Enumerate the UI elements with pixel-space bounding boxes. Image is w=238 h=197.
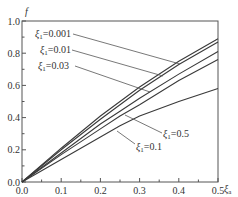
leader-line [72, 50, 163, 76]
y-tick-label: 0.0 [8, 177, 21, 188]
x-axis-label: ξa [224, 183, 232, 196]
curve-ξ1=0.5 [22, 60, 218, 182]
leader-line [75, 66, 150, 92]
x-tick-label: 0.1 [55, 185, 68, 196]
leader-line [73, 34, 180, 64]
x-tick-labels: 0.00.10.20.30.40.5 [16, 185, 225, 196]
y-tick-label: 0.8 [8, 48, 21, 59]
series-label: ξ1=0.5 [163, 128, 189, 141]
curve-ξ1=0.03 [22, 52, 218, 182]
x-tick-label: 0.3 [133, 185, 146, 196]
x-tick-label: 0.5 [212, 185, 225, 196]
y-tick-label: 0.6 [8, 80, 21, 91]
x-tick-label: 0.2 [94, 185, 107, 196]
y-tick-label: 0.2 [8, 144, 21, 155]
y-tick-label: 1.0 [8, 16, 21, 27]
series-label: ξ1=0.01 [40, 44, 71, 57]
leader-line [125, 115, 162, 133]
x-tick-label: 0.4 [173, 185, 186, 196]
line-chart: 0.00.10.20.30.40.5 0.00.20.40.60.81.0 ξ1… [0, 0, 238, 197]
y-tick-label: 0.4 [8, 112, 21, 123]
series-label: ξ1=0.03 [38, 60, 69, 73]
series-label: ξ1=0.001 [35, 28, 71, 41]
series-label: ξ1=0.1 [136, 141, 162, 154]
leader-line [117, 131, 135, 144]
x-axis-label-sub: a [228, 188, 232, 196]
series-labels: ξ1=0.001ξ1=0.01ξ1=0.03ξ1=0.5ξ1=0.1 [35, 28, 189, 154]
y-axis-label: f [25, 6, 29, 17]
y-tick-labels: 0.00.20.40.60.81.0 [8, 16, 21, 188]
